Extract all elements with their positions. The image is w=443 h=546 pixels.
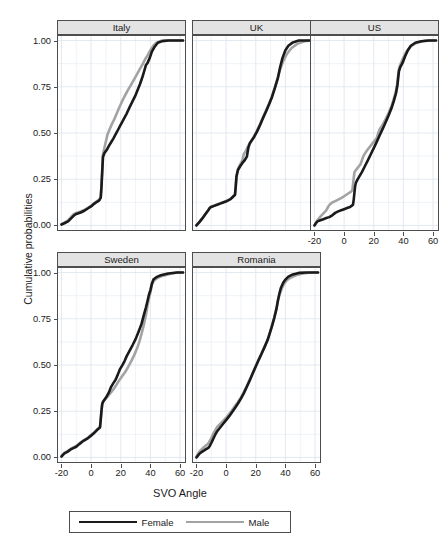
faceted-cdf-figure: ItalyUKUSSwedenRomania0.000.250.500.751.… xyxy=(0,0,443,546)
cdf-line-female xyxy=(61,273,183,457)
x-tick-label: 0 xyxy=(330,236,358,246)
y-tick-mark xyxy=(54,319,58,320)
x-tick-label: 60 xyxy=(301,468,329,478)
facet-strip-romania: Romania xyxy=(192,252,321,267)
x-axis-title: SVO Angle xyxy=(0,487,360,499)
x-tick-label: 40 xyxy=(136,468,164,478)
panel-plot-area xyxy=(311,36,438,230)
x-tick-mark xyxy=(121,464,122,468)
x-tick-mark xyxy=(374,232,375,236)
facet-strip-label: UK xyxy=(250,22,263,33)
x-tick-mark xyxy=(91,464,92,468)
cdf-line-female xyxy=(61,41,183,225)
y-tick-label: 0.50 xyxy=(17,128,51,138)
x-tick-label: -20 xyxy=(182,468,210,478)
x-tick-mark xyxy=(226,464,227,468)
y-tick-label: 0.25 xyxy=(17,406,51,416)
facet-panel-italy xyxy=(57,35,186,231)
legend-swatch-male xyxy=(186,521,244,523)
x-tick-mark xyxy=(315,464,316,468)
x-tick-mark xyxy=(150,464,151,468)
x-tick-mark xyxy=(344,232,345,236)
y-tick-mark xyxy=(54,411,58,412)
x-tick-label: -20 xyxy=(47,468,75,478)
facet-strip-italy: Italy xyxy=(57,20,186,35)
legend-item-male[interactable]: Male xyxy=(186,517,282,528)
cdf-line-male xyxy=(61,41,183,225)
x-tick-label: 20 xyxy=(107,468,135,478)
facet-strip-label: US xyxy=(368,22,381,33)
x-tick-mark xyxy=(285,464,286,468)
y-tick-label: 0.75 xyxy=(17,82,51,92)
y-tick-mark xyxy=(54,365,58,366)
y-tick-label: 1.00 xyxy=(17,36,51,46)
y-tick-mark xyxy=(54,457,58,458)
facet-strip-label: Romania xyxy=(237,254,275,265)
x-tick-label: 20 xyxy=(242,468,270,478)
facet-strip-us: US xyxy=(310,20,439,35)
y-axis-title: Cumulative probabilities xyxy=(22,139,34,359)
y-tick-mark xyxy=(54,87,58,88)
x-tick-mark xyxy=(403,232,404,236)
panel-plot-area xyxy=(193,36,320,230)
y-tick-label: 0.00 xyxy=(17,452,51,462)
legend: FemaleMale xyxy=(69,511,291,533)
legend-label: Male xyxy=(244,517,282,528)
facet-strip-label: Italy xyxy=(113,22,131,33)
legend-label: Female xyxy=(137,517,186,528)
x-tick-mark xyxy=(196,464,197,468)
facet-panel-us xyxy=(310,35,439,231)
x-tick-label: 40 xyxy=(389,236,417,246)
x-tick-mark xyxy=(433,232,434,236)
x-tick-mark xyxy=(180,464,181,468)
x-tick-label: 40 xyxy=(271,468,299,478)
facet-panel-sweden xyxy=(57,267,186,463)
y-tick-mark xyxy=(54,273,58,274)
x-tick-label: 0 xyxy=(212,468,240,478)
y-tick-mark xyxy=(54,41,58,42)
legend-swatch-female xyxy=(79,521,137,523)
y-tick-mark xyxy=(54,133,58,134)
y-tick-label: 0.50 xyxy=(17,360,51,370)
facet-panel-romania xyxy=(192,267,321,463)
facet-strip-uk: UK xyxy=(192,20,321,35)
legend-item-female[interactable]: Female xyxy=(79,517,186,528)
x-tick-label: 0 xyxy=(77,468,105,478)
x-tick-label: -20 xyxy=(300,236,328,246)
x-tick-mark xyxy=(256,464,257,468)
x-tick-mark xyxy=(314,232,315,236)
panel-plot-area xyxy=(193,268,320,462)
panel-plot-area xyxy=(58,36,185,230)
facet-strip-label: Sweden xyxy=(104,254,139,265)
y-tick-mark xyxy=(54,179,58,180)
x-tick-label: 60 xyxy=(419,236,443,246)
facet-strip-sweden: Sweden xyxy=(57,252,186,267)
panel-plot-area xyxy=(58,268,185,462)
y-tick-mark xyxy=(54,225,58,226)
x-tick-label: 20 xyxy=(360,236,388,246)
facet-panel-uk xyxy=(192,35,321,231)
x-tick-mark xyxy=(61,464,62,468)
